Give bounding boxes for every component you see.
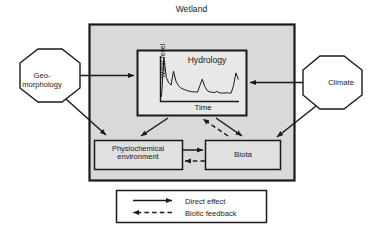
- biota-box: [206, 141, 281, 170]
- diagram-graphics: [0, 0, 383, 240]
- geomorphology-node: [20, 49, 80, 102]
- hydrology-panel: [138, 51, 247, 116]
- wetland-conceptual-diagram: Wetland Geo- morphology Climate Hydrolog…: [0, 0, 383, 240]
- climate-node: [303, 56, 362, 109]
- physiochemical-box: [95, 141, 183, 170]
- legend-box: [117, 191, 267, 223]
